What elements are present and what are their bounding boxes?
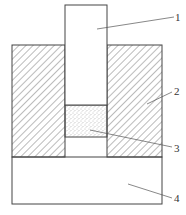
label-2: 2 xyxy=(174,85,180,97)
leader-line-1 xyxy=(97,17,174,29)
piston xyxy=(65,5,107,105)
diagram-canvas: 1 2 3 4 xyxy=(0,0,186,215)
label-4: 4 xyxy=(174,192,180,204)
label-3: 3 xyxy=(174,142,180,154)
die-wall-left xyxy=(12,45,65,157)
base-block xyxy=(12,157,162,204)
label-1: 1 xyxy=(175,11,181,23)
